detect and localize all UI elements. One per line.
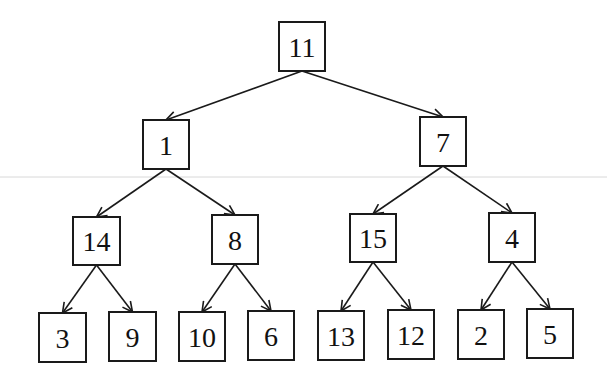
edge-arrow-4-to-2 xyxy=(481,262,512,310)
node-label: 2 xyxy=(474,320,488,351)
tree-node-7: 7 xyxy=(420,117,466,166)
node-label: 9 xyxy=(126,322,140,353)
tree-node-14: 14 xyxy=(73,217,120,265)
edge-arrow-8-to-6 xyxy=(235,264,271,311)
node-label: 4 xyxy=(505,223,519,254)
tree-node-13: 13 xyxy=(318,311,364,360)
edge-arrow-4-to-5 xyxy=(512,262,550,309)
tree-node-8: 8 xyxy=(212,215,258,264)
node-label: 13 xyxy=(327,321,355,352)
node-label: 1 xyxy=(159,130,173,161)
tree-node-2: 2 xyxy=(458,310,504,359)
edge-arrow-8-to-10 xyxy=(202,264,235,312)
edge-arrow-1-to-14 xyxy=(97,169,167,217)
edge-arrow-11-to-1 xyxy=(166,71,302,120)
edge-arrow-14-to-9 xyxy=(97,265,133,312)
node-label: 12 xyxy=(397,320,425,351)
tree-node-3: 3 xyxy=(39,313,86,362)
edge-arrow-7-to-15 xyxy=(373,166,443,214)
tree-node-9: 9 xyxy=(109,312,156,361)
tree-node-10: 10 xyxy=(179,312,225,361)
node-label: 5 xyxy=(543,319,557,350)
tree-diagram: 111714815439106131225 xyxy=(0,0,607,383)
edge-arrow-7-to-4 xyxy=(443,166,512,213)
node-label: 8 xyxy=(228,225,242,256)
edge-arrow-11-to-7 xyxy=(302,71,443,117)
node-label: 6 xyxy=(264,321,278,352)
edge-arrow-15-to-12 xyxy=(373,262,411,310)
tree-node-11: 11 xyxy=(279,22,325,71)
node-label: 3 xyxy=(56,323,70,354)
tree-node-5: 5 xyxy=(527,309,573,358)
node-label: 11 xyxy=(289,32,316,63)
edges-group xyxy=(63,71,551,313)
tree-node-1: 1 xyxy=(143,120,189,169)
node-label: 7 xyxy=(436,127,450,158)
tree-node-12: 12 xyxy=(388,310,434,359)
edge-arrow-14-to-3 xyxy=(63,265,97,313)
tree-node-4: 4 xyxy=(489,213,535,262)
node-label: 10 xyxy=(188,322,216,353)
edge-arrow-1-to-8 xyxy=(166,169,235,215)
node-label: 14 xyxy=(83,226,111,257)
edge-arrow-15-to-13 xyxy=(341,262,373,311)
node-label: 15 xyxy=(359,223,387,254)
tree-node-6: 6 xyxy=(248,311,294,360)
tree-node-15: 15 xyxy=(350,214,396,262)
